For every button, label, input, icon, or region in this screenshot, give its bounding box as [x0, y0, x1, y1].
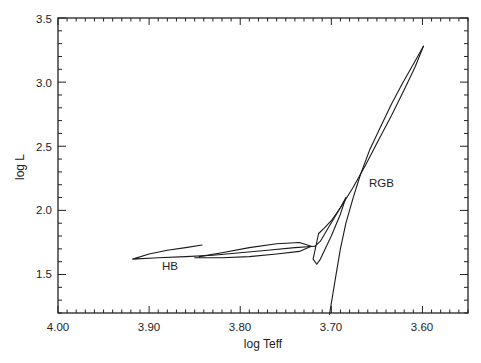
y-axis-title: log L [13, 154, 27, 180]
plot-frame [58, 18, 468, 313]
x-tick-label: 3.90 [138, 321, 160, 333]
y-tick-label: 2.5 [36, 141, 52, 153]
x-axis-title: log Teff [244, 337, 283, 351]
x-tick-label: 4.00 [47, 321, 69, 333]
y-tick-label: 3.0 [36, 77, 52, 89]
rgb-label: RGB [369, 177, 394, 189]
y-tick-label: 1.5 [36, 268, 52, 280]
x-tick-label: 3.80 [229, 321, 251, 333]
y-tick-label: 3.5 [36, 13, 52, 25]
x-axis-ticks [58, 18, 468, 313]
y-tick-label: 2.0 [36, 204, 52, 216]
y-axis-ticks [58, 18, 468, 313]
hr-diagram-chart: 4.00 3.90 3.80 3.70 3.60 1.5 2.0 2.5 3.0… [0, 0, 481, 363]
track-sub-flash-loops [313, 198, 346, 265]
x-tick-label: 3.60 [411, 321, 433, 333]
hb-label: HB [162, 260, 178, 272]
x-tick-label: 3.70 [320, 321, 342, 333]
